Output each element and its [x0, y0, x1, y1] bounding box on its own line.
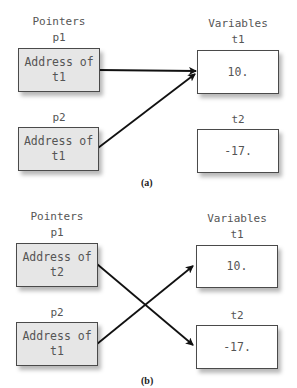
variable-label-t2-a: t2 [197, 113, 279, 127]
variable-box-t2-b: -17. [196, 325, 278, 369]
pointer-target: t1 [50, 344, 64, 359]
pointers-header-a: Pointers [18, 15, 100, 29]
variable-label-t1-b: t1 [196, 228, 278, 242]
pointer-label-p2-b: p2 [16, 306, 98, 320]
variable-box-t1-b: 10. [196, 245, 278, 288]
variable-value: -17. [223, 340, 251, 355]
pointer-target: t1 [52, 70, 66, 85]
pointer-target: t2 [50, 265, 64, 280]
variables-header-a: Variables [197, 17, 279, 31]
pointer-target: t1 [52, 149, 66, 164]
caption-a: (a) [141, 177, 153, 188]
pointer-text: Address of [22, 250, 91, 265]
variable-value: 10. [228, 65, 249, 80]
variable-label-t1-a: t1 [197, 33, 279, 47]
variables-header-b: Variables [196, 212, 278, 226]
arrow-a-p1-to-t1 [99, 70, 196, 71]
pointer-label-p1-a: p1 [18, 31, 100, 45]
variable-value: 10. [227, 259, 248, 274]
pointer-box-p1-a: Address of t1 [18, 48, 100, 92]
pointer-box-p2-b: Address of t1 [16, 322, 98, 366]
pointer-text: Address of [22, 329, 91, 344]
arrow-a-p2-to-t1 [98, 74, 195, 148]
variable-box-t1-a: 10. [197, 50, 279, 94]
pointer-text: Address of [24, 134, 93, 149]
pointer-box-p1-b: Address of t2 [16, 243, 98, 287]
variable-label-t2-b: t2 [196, 309, 278, 323]
variable-box-t2-a: -17. [197, 129, 279, 173]
pointer-box-p2-a: Address of t1 [18, 127, 99, 171]
pointer-label-p1-b: p1 [16, 226, 98, 240]
pointer-label-p2-a: p2 [18, 111, 100, 125]
pointer-text: Address of [24, 55, 93, 70]
variable-value: -17. [224, 144, 252, 159]
pointers-header-b: Pointers [16, 210, 98, 224]
caption-b: (b) [141, 375, 153, 386]
